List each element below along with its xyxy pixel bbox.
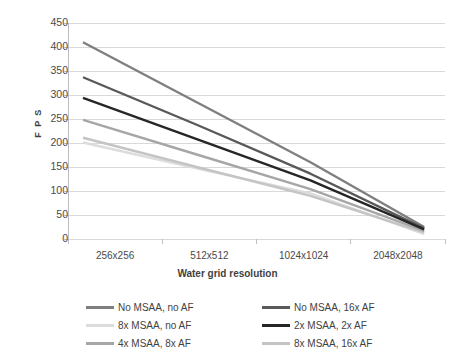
legend-color-swatch [86, 342, 114, 345]
y-axis-title: F P S [33, 93, 43, 153]
legend-item: 8x MSAA, no AF [86, 318, 191, 333]
y-tick-label: 300 [24, 89, 68, 100]
x-tick-label: 1024x1024 [259, 250, 349, 261]
legend-label: 8x MSAA, 16x AF [294, 338, 372, 349]
series-line [83, 98, 424, 230]
y-tick-label: 100 [24, 185, 68, 196]
series-line [83, 77, 424, 228]
legend-item: 2x MSAA, 2x AF [262, 318, 367, 333]
series-line [83, 143, 424, 235]
series-line [83, 120, 424, 231]
legend-color-swatch [262, 306, 290, 309]
y-tick-label: 400 [24, 41, 68, 52]
y-axis-tick-labels: 050100150200250300350400450 [22, 0, 68, 290]
plot-svg [0, 0, 455, 290]
legend-label: No MSAA, 16x AF [294, 302, 375, 313]
legend-color-swatch [262, 342, 290, 345]
x-axis-title: Water grid resolution [0, 268, 455, 279]
legend-label: No MSAA, no AF [118, 302, 194, 313]
x-tick-label: 256x256 [70, 250, 160, 261]
y-tick-label: 450 [24, 17, 68, 28]
legend-label: 2x MSAA, 2x AF [294, 320, 367, 331]
legend-color-swatch [86, 324, 114, 327]
legend-label: 8x MSAA, no AF [118, 320, 191, 331]
legend-item: 4x MSAA, 8x AF [86, 336, 191, 351]
legend-color-swatch [262, 324, 290, 327]
legend-item: No MSAA, 16x AF [262, 300, 375, 315]
legend-color-swatch [86, 306, 114, 309]
y-tick-label: 150 [24, 161, 68, 172]
legend-item: No MSAA, no AF [86, 300, 194, 315]
fps-vs-water-grid-resolution-chart: 050100150200250300350400450 F P S 256x25… [0, 0, 455, 364]
y-tick-label: 0 [24, 233, 68, 244]
y-tick-label: 350 [24, 65, 68, 76]
series-line [83, 138, 424, 233]
x-tick-label: 512x512 [164, 250, 254, 261]
plot-area [0, 0, 455, 290]
x-tick-label: 2048x2048 [353, 250, 443, 261]
y-tick-label: 50 [24, 209, 68, 220]
y-tick-label: 250 [24, 113, 68, 124]
chart-legend: No MSAA, no AF8x MSAA, no AF4x MSAA, 8x … [86, 300, 436, 356]
legend-item: 8x MSAA, 16x AF [262, 336, 372, 351]
y-tick-label: 200 [24, 137, 68, 148]
legend-label: 4x MSAA, 8x AF [118, 338, 191, 349]
